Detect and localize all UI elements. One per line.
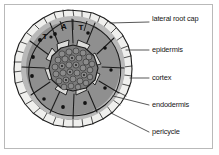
root-cross-section-figure: T A T lateral root cap epidermis cortex … bbox=[0, 0, 219, 155]
leader-line-lateral-root-cap bbox=[110, 22, 149, 23]
leader-line-pericycle bbox=[111, 113, 149, 132]
label-cortex: cortex bbox=[152, 73, 171, 82]
cell-letter-a: A bbox=[61, 22, 67, 31]
cell-letter-t-right: T bbox=[79, 23, 84, 32]
label-epidermis: epidermis bbox=[152, 45, 183, 54]
label-endodermis: endodermis bbox=[152, 100, 189, 109]
label-pericycle: pericycle bbox=[152, 127, 180, 136]
cell-letter-t-left: T bbox=[43, 32, 48, 41]
label-lateral-root-cap: lateral root cap bbox=[152, 14, 199, 23]
root-diagram: T A T bbox=[0, 0, 219, 155]
root-interior bbox=[21, 16, 125, 120]
